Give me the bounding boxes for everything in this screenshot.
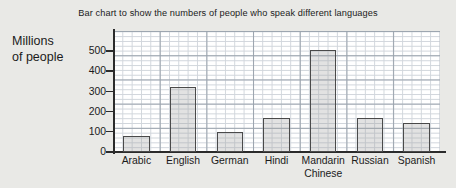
x-axis-tick-label-line: Arabic (122, 155, 151, 166)
x-axis-tick-label-line: Hindi (265, 155, 289, 166)
x-axis-tick-label-line: Mandarin (302, 155, 345, 166)
bar (310, 50, 337, 152)
bar (357, 118, 384, 152)
bars-layer (113, 31, 440, 152)
y-axis-tick-mark (106, 131, 113, 133)
y-axis-tick-label: 300 (72, 87, 106, 97)
bar (263, 118, 290, 152)
x-axis-tick-label-line: German (211, 155, 249, 166)
y-axis-tick-label: 0 (72, 147, 106, 157)
bar (403, 123, 430, 152)
x-axis-tick-label-line: Chinese (294, 168, 353, 181)
y-axis-tick-mark (106, 70, 113, 72)
y-axis-tick-label: 100 (72, 127, 106, 137)
bar (217, 132, 244, 152)
x-axis-ticks: ArabicEnglishGermanHindiMandarinChineseR… (113, 155, 440, 187)
y-axis-tick-mark (106, 50, 113, 52)
bar (170, 87, 197, 152)
x-axis-tick-label-line: Spanish (398, 155, 436, 166)
x-axis-tick-label-line: English (166, 155, 200, 166)
y-axis-ticks: 0100200300400500 (66, 0, 106, 188)
bar (123, 136, 150, 152)
y-axis-tick-mark (106, 111, 113, 113)
x-axis-tick-label-line: Russian (351, 155, 389, 166)
bar-chart-figure: Bar chart to show the numbers of people … (0, 0, 456, 188)
y-axis-tick-mark (106, 91, 113, 93)
y-axis-tick-label: 400 (72, 66, 106, 76)
y-axis-tick-label: 500 (72, 46, 106, 56)
x-axis-tick-label: Spanish (387, 155, 446, 168)
y-axis-tick-label: 200 (72, 107, 106, 117)
y-axis-tick-mark (106, 151, 113, 153)
